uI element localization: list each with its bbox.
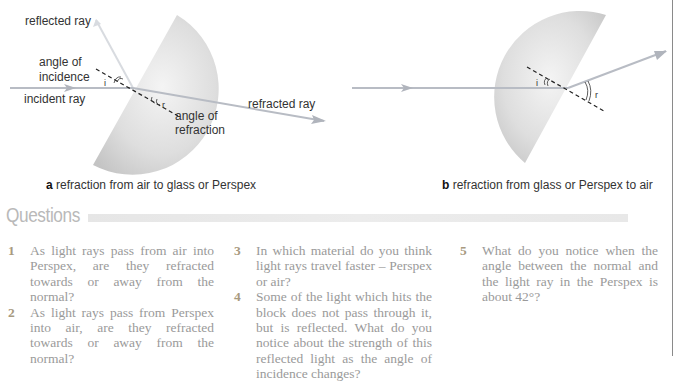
- refraction-diagrams: [0, 0, 682, 200]
- questions-column-1: 1 As light rays pass from air into Persp…: [0, 243, 214, 366]
- semicircle-block-a: [93, 15, 219, 175]
- questions-column-3: 5 What do you notice when the angle betw…: [452, 197, 658, 305]
- label-angle-of-incidence-line2: incidence: [39, 70, 90, 84]
- question-item-3: 3 In which material do you think light r…: [226, 243, 432, 289]
- question-item-2: 2 As light rays pass from Perspex into a…: [0, 305, 214, 367]
- label-reflected-ray: reflected ray: [25, 14, 91, 28]
- label-incident-ray: incident ray: [24, 92, 85, 106]
- question-text: As light rays pass from Perspex into air…: [30, 305, 214, 367]
- caption-a-letter: a: [46, 178, 53, 192]
- label-angle-of-refraction-line1: angle of: [175, 109, 218, 123]
- question-item-1: 1 As light rays pass from air into Persp…: [0, 243, 214, 305]
- reflected-ray-a: [96, 20, 133, 88]
- question-text: What do you notice when the angle betwee…: [482, 243, 658, 305]
- caption-b-text: refraction from glass or Perspex to air: [449, 178, 652, 192]
- question-number: 1: [8, 243, 15, 258]
- question-number: 4: [234, 289, 241, 304]
- question-item-4: 4 Some of the light which hits the block…: [226, 289, 432, 381]
- question-number: 5: [460, 243, 467, 258]
- label-angle-of-refraction-line2: refraction: [175, 123, 225, 137]
- label-angle-r-b: r: [595, 88, 598, 102]
- caption-a: a refraction from air to glass or Perspe…: [46, 178, 256, 192]
- question-number: 3: [234, 243, 241, 258]
- questions-heading: Questions: [6, 203, 80, 227]
- question-text: In which material do you think light ray…: [256, 243, 432, 289]
- label-angle-r-a: r: [162, 98, 165, 112]
- caption-a-text: refraction from air to glass or Perspex: [53, 178, 256, 192]
- label-angle-i-b: i: [536, 76, 538, 90]
- questions-column-2: 3 In which material do you think light r…: [226, 228, 432, 382]
- question-text: Some of the light which hits the block d…: [256, 289, 432, 381]
- label-angle-i-a: i: [104, 76, 106, 90]
- question-text: As light rays pass from air into Perspex…: [30, 243, 214, 305]
- label-angle-of-incidence-line1: angle of: [39, 55, 82, 69]
- question-number: 2: [8, 305, 15, 320]
- label-refracted-ray: refracted ray: [248, 97, 315, 111]
- diagram-b: [352, 11, 667, 163]
- question-item-5: 5 What do you notice when the angle betw…: [452, 243, 658, 305]
- caption-b: b refraction from glass or Perspex to ai…: [442, 178, 653, 192]
